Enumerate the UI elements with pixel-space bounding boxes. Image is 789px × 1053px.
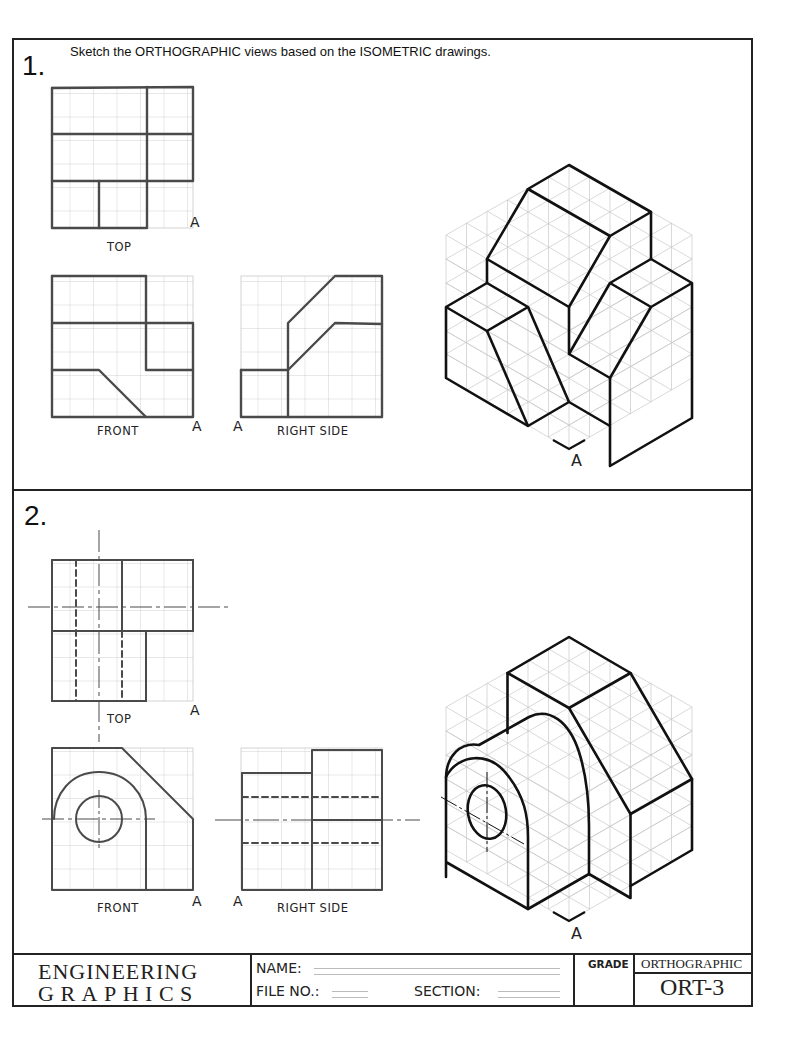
p2-iso-a-mark: A <box>571 924 582 943</box>
p1-isometric-drawing <box>446 165 692 466</box>
p2-right-side-label: RIGHT SIDE <box>277 901 348 915</box>
brand-line-2: GRAPHICS <box>38 981 199 1007</box>
grade-label: GRADE <box>588 958 629 970</box>
name-label: NAME: <box>256 960 302 976</box>
title-block: ENGINEERING GRAPHICS NAME: FILE NO.: SEC… <box>12 953 753 1007</box>
name-field[interactable] <box>314 968 560 975</box>
section-field[interactable] <box>498 991 560 998</box>
assignment-code: ORT-3 <box>660 974 724 1001</box>
p1-right-side-label: RIGHT SIDE <box>277 424 348 438</box>
p2-front-view <box>42 748 193 890</box>
p2-right-a-mark: A <box>233 893 243 909</box>
file-no-field[interactable] <box>332 991 368 998</box>
subject-label: ORTHOGRAPHIC <box>641 956 742 972</box>
p2-top-a-mark: A <box>190 702 200 718</box>
student-info-cell: NAME: FILE NO.: SECTION: <box>252 955 575 1005</box>
assignment-cell: ORTHOGRAPHIC ORT-3 <box>635 955 751 1005</box>
brand-cell: ENGINEERING GRAPHICS <box>14 955 252 1005</box>
p1-right-side-view <box>241 276 382 417</box>
p2-isometric-drawing <box>441 637 692 921</box>
p1-iso-a-mark: A <box>571 451 582 470</box>
p1-top-a-mark: A <box>190 214 200 230</box>
section-label: SECTION: <box>414 983 480 999</box>
file-no-label: FILE NO.: <box>256 983 319 999</box>
p2-front-label: FRONT <box>97 901 139 915</box>
p1-top-label: TOP <box>107 240 132 254</box>
grade-cell[interactable]: GRADE <box>575 955 635 1005</box>
p1-front-view <box>52 276 193 417</box>
p1-right-a-mark: A <box>233 418 243 434</box>
p2-front-a-mark: A <box>192 893 202 909</box>
p2-right-side-view <box>215 748 420 890</box>
p1-front-a-mark: A <box>192 418 202 434</box>
drawing-canvas <box>0 0 789 1053</box>
p2-top-label: TOP <box>107 712 132 726</box>
p1-front-label: FRONT <box>97 424 139 438</box>
p1-top-view <box>52 87 193 228</box>
